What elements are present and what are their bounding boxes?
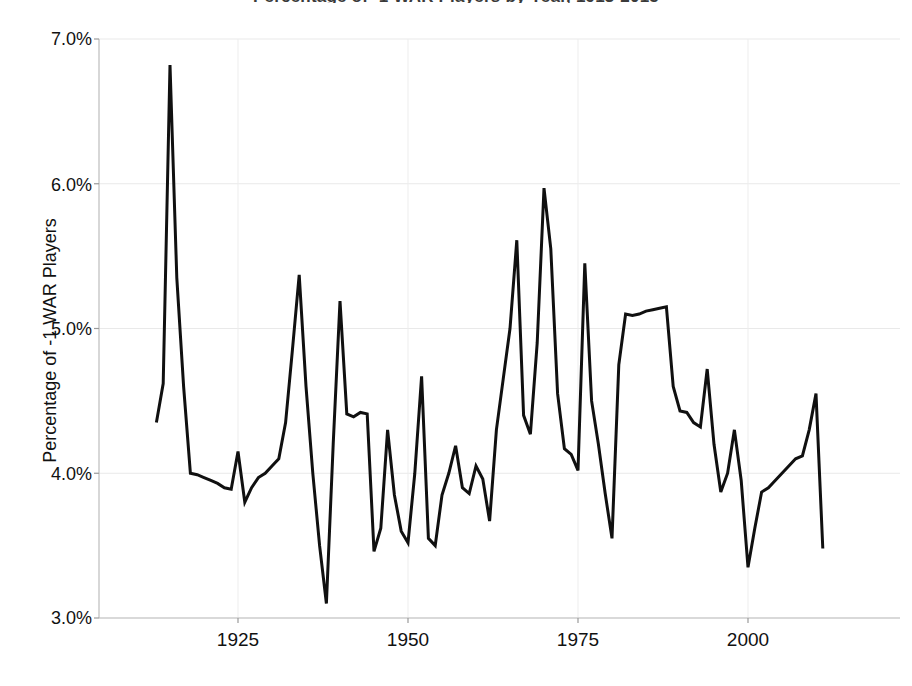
- plot-area: [0, 0, 912, 686]
- data-line-series: [156, 65, 822, 603]
- axis-ticks: [94, 39, 748, 623]
- chart-container: Percentage of -1 WAR Players by Year, 19…: [0, 0, 912, 686]
- grid-lines: [99, 39, 900, 618]
